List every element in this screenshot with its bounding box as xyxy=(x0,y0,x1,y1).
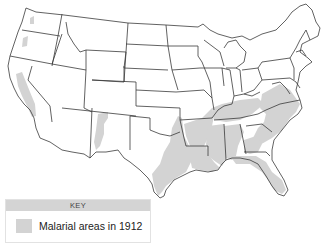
malarial-swatch xyxy=(16,219,32,233)
key-item-label: Malarial areas in 1912 xyxy=(39,220,142,232)
map-key: KEY Malarial areas in 1912 xyxy=(5,199,151,243)
key-item-malarial: Malarial areas in 1912 xyxy=(6,211,150,241)
key-header: KEY xyxy=(6,200,150,211)
